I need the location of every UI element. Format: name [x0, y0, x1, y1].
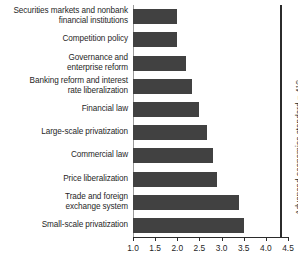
- bar: [133, 9, 177, 24]
- bar: [133, 218, 244, 233]
- bar: [133, 56, 186, 71]
- category-label: Financial law: [0, 104, 128, 114]
- bar: [133, 148, 213, 163]
- category-label: Large-scale privatization: [0, 127, 128, 137]
- reference-line-advanced-economies: [280, 5, 282, 238]
- bar-chart: Securities markets and nonbankfinancial …: [0, 0, 298, 266]
- category-label: Small-scale privatization: [0, 220, 128, 230]
- category-label-line: Financial law: [0, 104, 128, 114]
- category-label: Governance andenterprise reform: [0, 53, 128, 72]
- category-label: Commercial law: [0, 150, 128, 160]
- bar: [133, 195, 239, 210]
- x-axis-tick: [244, 237, 245, 241]
- x-axis-tick: [155, 237, 156, 241]
- x-axis-tick: [199, 237, 200, 241]
- category-label-line: Small-scale privatization: [0, 220, 128, 230]
- x-axis-tick-label: 4.5: [273, 243, 298, 253]
- bar: [133, 32, 177, 47]
- category-label-line: Large-scale privatization: [0, 127, 128, 137]
- reference-label-text: Advanced economies standard = 4: [294, 89, 298, 215]
- bar: [133, 102, 199, 117]
- x-axis-tick: [288, 237, 289, 241]
- x-axis-tick: [222, 237, 223, 241]
- category-label-line: Price liberalization: [0, 174, 128, 184]
- category-label-line: Banking reform and interest: [0, 76, 128, 86]
- reference-label-fraction: 1⁄3: [295, 80, 298, 88]
- category-label-line: enterprise reform: [0, 63, 128, 73]
- category-label: Securities markets and nonbankfinancial …: [0, 6, 128, 25]
- fraction-slash: ⁄: [295, 84, 298, 85]
- category-label-line: exchange system: [0, 202, 128, 212]
- category-label: Banking reform and interestrate liberali…: [0, 76, 128, 95]
- x-axis-tick: [266, 237, 267, 241]
- x-axis-tick: [177, 237, 178, 241]
- bar: [133, 79, 192, 94]
- category-label-line: Securities markets and nonbank: [0, 6, 128, 16]
- category-label-line: rate liberalization: [0, 86, 128, 96]
- category-label-line: Competition policy: [0, 34, 128, 44]
- fraction-numerator: 1: [295, 85, 298, 89]
- reference-line-label: Advanced economies standard = 41⁄3: [294, 80, 298, 215]
- category-label: Competition policy: [0, 34, 128, 44]
- x-axis-tick: [133, 237, 134, 241]
- bar: [133, 172, 217, 187]
- category-label: Price liberalization: [0, 174, 128, 184]
- category-label-line: financial institutions: [0, 16, 128, 26]
- fraction-denominator: 3: [295, 80, 298, 84]
- category-label-line: Commercial law: [0, 150, 128, 160]
- category-label: Trade and foreignexchange system: [0, 192, 128, 211]
- bar: [133, 125, 207, 140]
- category-label-line: Governance and: [0, 53, 128, 63]
- category-label-line: Trade and foreign: [0, 192, 128, 202]
